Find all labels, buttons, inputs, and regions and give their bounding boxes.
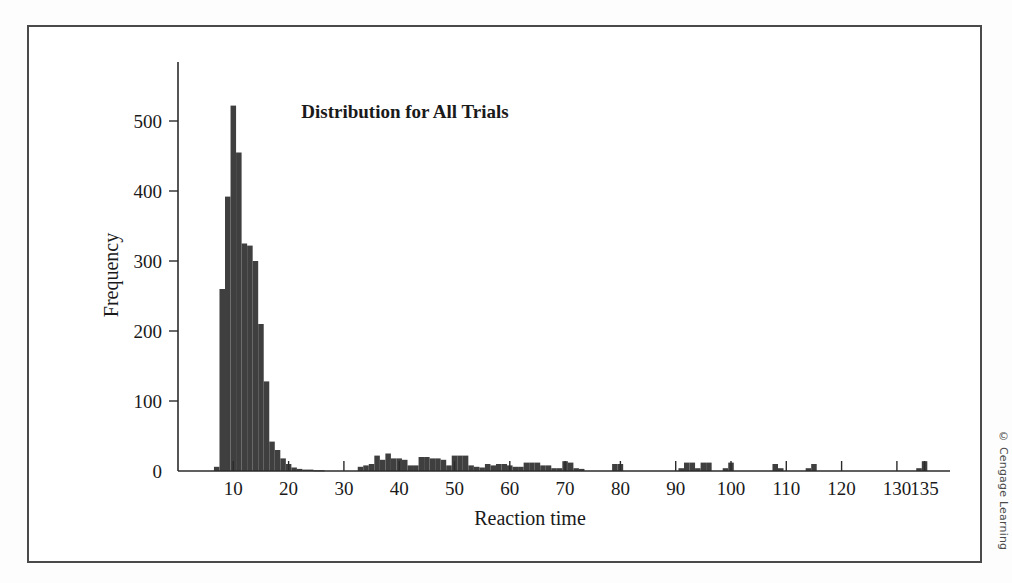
histogram-bar	[430, 458, 436, 471]
histogram-bar	[441, 460, 447, 471]
histogram-bar	[468, 465, 474, 471]
histogram-bar	[369, 464, 375, 471]
histogram-bar	[524, 463, 530, 471]
histogram-bar	[419, 457, 425, 471]
histogram-bar	[236, 153, 242, 472]
y-tick-label: 200	[134, 321, 163, 342]
histogram-bar	[269, 442, 275, 471]
histogram-bar	[247, 246, 253, 471]
histogram-bar	[264, 381, 270, 471]
histogram-bar	[258, 324, 264, 471]
histogram-bar	[457, 456, 463, 471]
histogram-bar	[612, 464, 618, 471]
chart-title: Distribution for All Trials	[301, 101, 508, 122]
histogram-bar	[435, 458, 441, 471]
x-tick-label: 135	[910, 478, 939, 499]
histogram-bar	[540, 465, 546, 471]
x-tick-label: 20	[279, 478, 298, 499]
histogram-bar	[496, 464, 502, 471]
histogram-bar	[811, 464, 817, 471]
histogram-bar	[275, 450, 281, 471]
x-tick-label: 40	[390, 478, 409, 499]
x-tick-label: 130	[883, 478, 912, 499]
histogram-bar	[408, 465, 414, 471]
histogram-bar	[690, 463, 696, 471]
histogram-bar	[225, 197, 231, 471]
histogram-bar	[363, 465, 369, 471]
histogram-bar	[402, 460, 408, 471]
histogram-bar	[546, 465, 552, 471]
y-tick-label: 300	[134, 251, 163, 272]
y-axis-ticks: 0100200300400500	[134, 111, 179, 482]
x-axis-label: Reaction time	[474, 507, 586, 529]
histogram-bar	[529, 463, 535, 471]
histogram-bar	[374, 456, 380, 471]
copyright-credit: © Cengage Learning	[992, 430, 1010, 550]
histogram-bar	[280, 458, 286, 471]
y-tick-label: 400	[134, 181, 163, 202]
histogram-bar	[219, 289, 225, 471]
histogram-bar	[242, 244, 248, 472]
histogram-bar	[706, 463, 712, 471]
x-tick-label: 90	[666, 478, 685, 499]
x-axis-ticks: 102030405060708090100110120130135	[224, 461, 939, 499]
y-tick-label: 500	[134, 111, 163, 132]
histogram-bar	[535, 463, 541, 471]
y-tick-label: 0	[153, 461, 163, 482]
x-tick-label: 110	[772, 478, 800, 499]
x-tick-label: 120	[827, 478, 856, 499]
histogram-bar	[502, 464, 508, 471]
x-tick-label: 60	[500, 478, 519, 499]
histogram-bar	[391, 458, 397, 471]
histogram-bar	[568, 463, 574, 471]
histogram-bar	[684, 463, 690, 471]
histogram-bar	[253, 261, 259, 471]
histogram-bar	[485, 464, 491, 471]
figure-container: 0100200300400500 10203040506070809010011…	[0, 0, 1012, 583]
y-tick-label: 100	[134, 391, 163, 412]
histogram-svg: 0100200300400500 10203040506070809010011…	[0, 0, 1012, 583]
histogram-bar	[385, 454, 391, 472]
histogram-bar	[490, 465, 496, 471]
x-tick-label: 80	[611, 478, 630, 499]
x-tick-label: 50	[445, 478, 464, 499]
histogram-bars	[214, 106, 927, 472]
histogram-bar	[231, 106, 237, 471]
histogram-bar	[413, 465, 419, 471]
chart-plot-area: 0100200300400500 10203040506070809010011…	[0, 0, 1012, 583]
x-tick-label: 70	[556, 478, 575, 499]
x-tick-label: 10	[224, 478, 243, 499]
y-axis-label: Frequency	[100, 233, 123, 317]
histogram-bar	[424, 457, 430, 471]
histogram-bar	[380, 460, 386, 471]
histogram-bar	[701, 463, 707, 471]
x-tick-label: 30	[334, 478, 353, 499]
histogram-bar	[463, 456, 469, 471]
histogram-bar	[446, 465, 452, 471]
histogram-bar	[772, 464, 778, 471]
x-tick-label: 100	[717, 478, 746, 499]
